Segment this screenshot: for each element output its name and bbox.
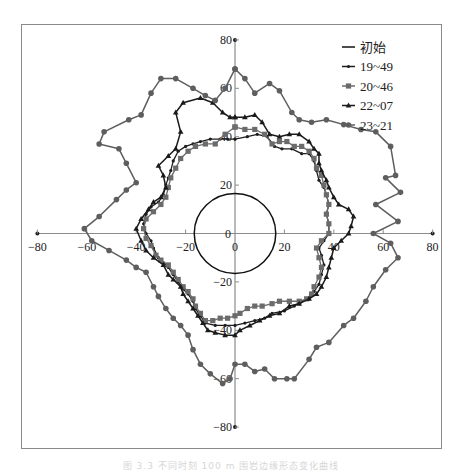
square-marker [277, 139, 282, 144]
square-marker [173, 166, 178, 171]
square-marker [210, 318, 215, 323]
triangle-marker [252, 112, 258, 117]
circle-marker [208, 371, 214, 377]
circle-marker [314, 344, 320, 350]
circle-marker [82, 226, 88, 232]
legend-label: 19~49 [360, 59, 393, 74]
series-line [144, 127, 329, 321]
circle-marker [296, 117, 302, 123]
series-line [144, 134, 329, 325]
square-marker [324, 192, 329, 197]
circle-marker [383, 175, 389, 181]
circle-marker [262, 366, 268, 372]
circle-marker [232, 361, 238, 367]
circle-marker [291, 376, 297, 382]
legend-item: 初始 [342, 40, 386, 55]
circle-marker [148, 90, 154, 96]
diamond-marker [317, 179, 320, 182]
triangle-marker [173, 146, 179, 151]
square-marker [316, 255, 321, 260]
circle-marker [198, 361, 204, 367]
square-marker [190, 296, 195, 301]
diamond-marker [233, 324, 236, 327]
square-marker [269, 141, 274, 146]
diamond-marker [169, 169, 172, 172]
diamond-marker [246, 135, 249, 138]
square-marker [166, 262, 171, 267]
circle-marker [232, 66, 238, 72]
triangle-marker [319, 168, 325, 173]
circle-marker [133, 180, 139, 186]
legend-item: 23~21 [342, 118, 393, 133]
square-marker [314, 245, 319, 250]
circle-marker [277, 88, 283, 94]
diamond-marker [256, 133, 259, 136]
circle-marker [242, 361, 248, 367]
figure-caption: 图 3.3 不同时刻 100 m 围岩边缘形态变化曲线 [0, 459, 462, 472]
diamond-marker [149, 239, 152, 242]
square-marker [148, 243, 153, 248]
circle-marker [101, 129, 107, 135]
square-marker [314, 166, 319, 171]
legend: 初始19~4920~4622~0723~21 [342, 40, 394, 133]
square-marker [319, 265, 324, 270]
square-marker [346, 83, 351, 88]
circle-marker [89, 238, 95, 244]
square-marker [326, 231, 331, 236]
series-19-49 [142, 133, 330, 327]
square-marker [176, 277, 181, 282]
square-marker [168, 175, 173, 180]
circle-marker [178, 323, 184, 329]
circle-marker [143, 269, 149, 275]
circle-marker [388, 144, 394, 150]
circle-marker [398, 190, 404, 196]
square-marker [252, 127, 257, 132]
square-marker [311, 156, 316, 161]
circle-marker [96, 214, 102, 220]
circle-marker [222, 86, 228, 92]
square-marker [316, 274, 321, 279]
circle-marker [267, 81, 273, 87]
series-line [136, 98, 353, 335]
circle-marker [351, 315, 357, 321]
circle-marker [289, 110, 295, 116]
legend-label: 初始 [360, 40, 386, 55]
curves [82, 66, 404, 386]
circle-marker [341, 323, 347, 329]
square-marker [321, 183, 326, 188]
circle-marker [163, 306, 169, 312]
circle-marker [371, 231, 377, 237]
circle-marker [395, 255, 401, 261]
square-marker [203, 141, 208, 146]
square-marker [260, 304, 265, 309]
circle-marker [126, 117, 132, 123]
square-marker [218, 316, 223, 321]
square-marker [252, 304, 257, 309]
square-marker [326, 202, 331, 207]
circle-marker [203, 93, 209, 99]
circle-marker [373, 202, 379, 208]
circle-marker [173, 76, 179, 82]
circle-marker [393, 173, 399, 179]
circle-marker [324, 117, 330, 123]
circle-marker [220, 381, 226, 387]
legend-item: 20~46 [342, 79, 394, 94]
diamond-marker [280, 147, 283, 150]
circle-marker [124, 257, 130, 263]
square-marker [185, 149, 190, 154]
square-marker [223, 132, 228, 137]
square-marker [299, 144, 304, 149]
legend-item: 22~07 [342, 98, 394, 113]
legend-label: 22~07 [360, 98, 394, 113]
circle-marker [395, 219, 401, 225]
diamond-marker [243, 321, 246, 324]
square-marker [163, 195, 168, 200]
circle-marker [306, 357, 312, 363]
circle-marker [185, 332, 191, 338]
diamond-marker [172, 159, 175, 162]
square-marker [319, 238, 324, 243]
square-marker [245, 306, 250, 311]
square-marker [324, 212, 329, 217]
square-marker [232, 124, 237, 129]
square-marker [178, 156, 183, 161]
